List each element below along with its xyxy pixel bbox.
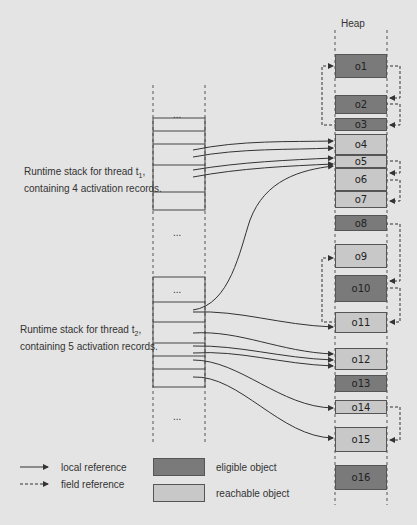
heap-object-o9: o9 — [335, 244, 387, 268]
heap-object-o8: o8 — [335, 215, 387, 231]
heap-object-o1: o1 — [335, 54, 387, 78]
heap-object-o13: o13 — [335, 375, 387, 392]
heap-object-o6: o6 — [335, 168, 387, 191]
legend-field-reference-label: field reference — [61, 478, 124, 491]
legend-eligible-label: eligible object — [216, 461, 277, 474]
stack-t1 — [153, 118, 205, 210]
legend-eligible-swatch — [153, 458, 205, 476]
heap-object-o16: o16 — [335, 465, 387, 490]
stack-t2-label: Runtime stack for thread t2, containing … — [20, 323, 158, 353]
heap-object-o5: o5 — [335, 155, 387, 168]
stack-ellipsis-middle: ... — [173, 226, 181, 239]
stack-column-lines — [153, 85, 205, 445]
heap-title: Heap — [341, 18, 365, 29]
heap-object-o3: o3 — [335, 118, 387, 131]
legend-reachable-swatch — [153, 484, 205, 502]
local-references-t2 — [193, 166, 333, 438]
stack-t1-label: Runtime stack for thread t1, containing … — [24, 165, 162, 195]
heap-object-o10: o10 — [335, 275, 387, 302]
stack-t2-label-line2: containing 5 activation records. — [20, 341, 158, 352]
stack-t1-label-line1: Runtime stack for thread t — [24, 166, 139, 177]
local-references-t1 — [193, 141, 333, 177]
heap-object-o7: o7 — [335, 191, 387, 208]
heap-object-o15: o15 — [335, 427, 387, 452]
legend-local-reference-label: local reference — [61, 461, 127, 474]
stack-ellipsis-bottom: ... — [173, 410, 181, 423]
heap-object-o4: o4 — [335, 134, 387, 155]
heap-object-o12: o12 — [335, 348, 387, 370]
heap-object-o2: o2 — [335, 95, 387, 114]
stack-t2-label-comma: , — [138, 324, 141, 335]
heap-object-o14: o14 — [335, 400, 387, 414]
stack-ellipsis-t2-top: ... — [173, 283, 181, 296]
stack-ellipsis-top: ... — [173, 108, 181, 121]
legend-reachable-label: reachable object — [216, 487, 289, 500]
stack-t2-label-line1: Runtime stack for thread t — [20, 324, 135, 335]
heap-object-o11: o11 — [335, 312, 387, 333]
stack-t1-label-comma: , — [142, 166, 145, 177]
stack-t1-label-line2: containing 4 activation records. — [24, 183, 162, 194]
